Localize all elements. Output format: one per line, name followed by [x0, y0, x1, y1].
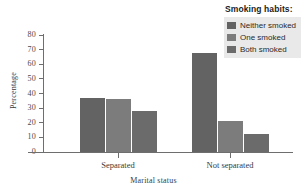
chart-screenshot: Smoking habits: Neither smoked One smoke… [0, 0, 307, 192]
y-axis-tick-label: 80 [20, 30, 36, 39]
y-axis-tick-label: 20 [20, 118, 36, 127]
x-axis-tick-label: Not separated [190, 160, 270, 170]
legend-label-neither-smoked: Neither smoked [240, 21, 296, 31]
y-axis-tick-label: 50 [20, 74, 36, 83]
y-axis-tick-label: 10 [20, 132, 36, 141]
legend-swatch-neither-smoked [227, 22, 236, 29]
y-axis-tick-label: 40 [20, 89, 36, 98]
x-axis-tick [118, 153, 119, 158]
bar [132, 111, 157, 152]
y-axis-tick-labels: 01020304050607080 [16, 0, 36, 192]
x-axis-tick [230, 153, 231, 158]
y-axis-tick-label: 70 [20, 45, 36, 54]
bar [106, 99, 131, 152]
x-axis-title: Marital status [0, 176, 307, 185]
plot-area [44, 35, 292, 152]
bar [218, 121, 243, 152]
bar [80, 98, 105, 152]
legend-title: Smoking habits: [225, 4, 307, 14]
y-axis-title: Percentage [9, 56, 18, 126]
bar-group-container [44, 35, 292, 152]
y-axis-tick-label: 30 [20, 103, 36, 112]
bar [244, 134, 269, 152]
legend-item-neither-smoked: Neither smoked [227, 20, 298, 31]
x-axis-line [28, 152, 293, 153]
x-axis-tick-label: Separated [78, 160, 158, 170]
bar [192, 53, 217, 152]
y-axis-tick-label: 60 [20, 59, 36, 68]
